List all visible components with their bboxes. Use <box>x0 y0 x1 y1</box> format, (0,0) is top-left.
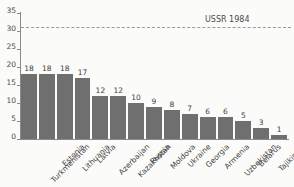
bar-slot: 12 <box>110 13 126 139</box>
bar-value-label: 9 <box>146 98 162 106</box>
bar-slot: 10 <box>128 13 144 139</box>
bar-value-label: 8 <box>164 101 180 109</box>
bar-value-label: 5 <box>235 112 251 120</box>
bar <box>235 121 251 139</box>
bar <box>200 117 216 139</box>
bar-value-label: 17 <box>75 69 91 77</box>
bar-value-label: 6 <box>218 108 234 116</box>
bar-slot: 5 <box>235 13 251 139</box>
bar <box>21 74 37 139</box>
bar-slot: 6 <box>218 13 234 139</box>
bar-slot: 18 <box>57 13 73 139</box>
bar-slot: 9 <box>146 13 162 139</box>
bar-value-label: 10 <box>128 94 144 102</box>
bar <box>110 96 126 139</box>
bar <box>92 96 108 139</box>
bar-slot: 18 <box>39 13 55 139</box>
bar <box>128 103 144 139</box>
bar-value-label: 1 <box>271 126 287 134</box>
bar <box>39 74 55 139</box>
bar-slot: 18 <box>21 13 37 139</box>
bar-slot: 3 <box>253 13 269 139</box>
bar <box>75 78 91 139</box>
bar <box>253 128 269 139</box>
bar-value-label: 7 <box>182 105 198 113</box>
bar-value-label: 3 <box>253 119 269 127</box>
bar-slot: 12 <box>92 13 108 139</box>
bar <box>146 107 162 139</box>
bar <box>164 110 180 139</box>
bar-slot: 8 <box>164 13 180 139</box>
bar-slot: 7 <box>182 13 198 139</box>
bar <box>271 135 287 139</box>
bar <box>182 114 198 139</box>
bar-slot: 6 <box>200 13 216 139</box>
bar-value-label: 18 <box>57 65 73 73</box>
bar-chart: 05101520253035 USSR 1984 181818171212109… <box>0 0 294 187</box>
bar-value-label: 18 <box>21 65 37 73</box>
bar-slot: 17 <box>75 13 91 139</box>
bar-value-label: 12 <box>110 87 126 95</box>
bar <box>218 117 234 139</box>
bar-value-label: 18 <box>39 65 55 73</box>
bar-value-label: 6 <box>200 108 216 116</box>
bar-slot: 1 <box>271 13 287 139</box>
bar <box>57 74 73 139</box>
bar-value-label: 12 <box>92 87 108 95</box>
